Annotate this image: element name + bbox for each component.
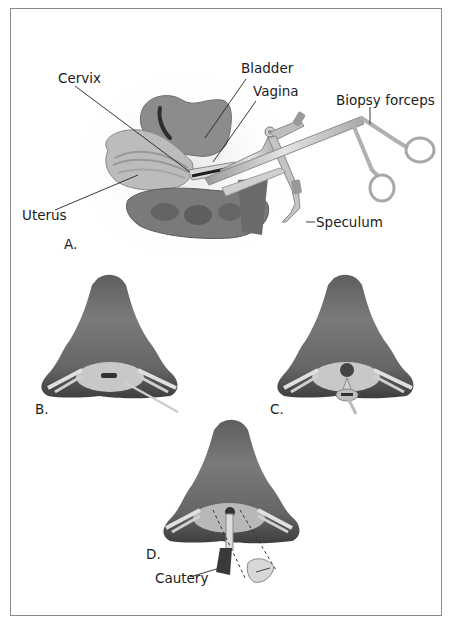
label-bladder: Bladder xyxy=(241,60,293,76)
panel-label-b: B. xyxy=(35,401,49,417)
label-cervix: Cervix xyxy=(58,70,101,86)
biopsy-forceps-ring-1 xyxy=(406,138,434,162)
panel-b-cervix-view xyxy=(41,275,178,412)
label-vagina: Vagina xyxy=(253,83,299,99)
panel-label-a: A. xyxy=(64,236,77,252)
label-uterus: Uterus xyxy=(22,207,67,223)
biopsy-forceps-arm-2 xyxy=(352,122,378,176)
biopsy-forceps-ring-2 xyxy=(370,175,394,201)
label-biopsy-forceps: Biopsy forceps xyxy=(336,92,435,108)
biopsy-forceps-arm-1 xyxy=(360,117,408,148)
panel-c-cervix-view xyxy=(277,275,413,414)
panel-label-c: C. xyxy=(270,401,284,417)
cautery-handle xyxy=(216,548,232,575)
label-speculum: Speculum xyxy=(316,214,383,230)
panel-label-d: D. xyxy=(146,546,161,562)
label-cautery: Cautery xyxy=(155,570,208,586)
panel-d-cervix-view xyxy=(163,420,299,583)
